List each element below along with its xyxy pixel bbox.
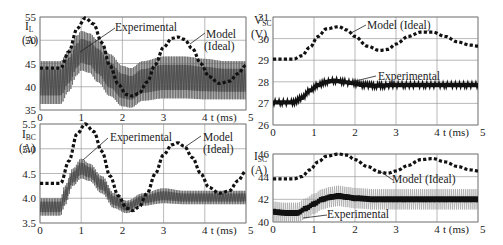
x-axis-label: t (ms) — [211, 111, 237, 124]
x-tick-label: 1 — [311, 126, 317, 138]
experimental-annotation: Experimental — [378, 70, 440, 83]
y-tick-label: 29 — [258, 54, 270, 66]
experimental-trace — [40, 159, 246, 216]
y-axis-label: IBC — [22, 128, 36, 142]
x-tick-label: 2 — [352, 126, 358, 138]
y-axis-unit: (V) — [251, 28, 267, 41]
chart-iSC: 40424446012345t (ms)ISC(A)Model (Ideal)E… — [251, 148, 486, 236]
x-tick-label: 5 — [480, 223, 486, 235]
x-tick-label: 1 — [78, 111, 84, 123]
x-tick-label: 0 — [37, 224, 43, 236]
x-tick-label: 4 — [434, 126, 440, 138]
x-axis-label: t (ms) — [443, 223, 469, 236]
y-tick-label: 27 — [258, 97, 270, 109]
y-axis-unit: (A) — [251, 164, 267, 177]
y-tick-label: 26 — [258, 119, 270, 131]
y-tick-label: 42 — [258, 193, 269, 205]
plot-frame — [273, 17, 478, 125]
model-annotation-sub: (Ideal) — [204, 40, 235, 53]
model-annotation: Model (Ideal) — [367, 19, 431, 32]
x-tick-label: 4 — [434, 223, 440, 235]
x-tick-label: 3 — [393, 126, 399, 138]
experimental-trace — [273, 79, 478, 105]
experimental-annotation: Experimental — [327, 208, 389, 221]
chart-iBC: 3.54.04.55.05.5012345t (ms)IBC(A)Experim… — [19, 118, 254, 237]
x-tick-label: 2 — [352, 223, 358, 235]
model-annotation: Model — [203, 131, 233, 143]
model-ideal-trace — [273, 27, 478, 59]
model-annotation: Model (Ideal) — [392, 173, 456, 186]
model-annotation-sub: (Ideal) — [203, 143, 234, 156]
x-tick-label: 2 — [120, 111, 126, 123]
y-tick-label: 45 — [25, 58, 37, 70]
y-tick-label: 40 — [25, 81, 37, 93]
y-tick-label: 28 — [258, 76, 270, 88]
figure: 3540455055012345t (ms)IL(A)ExperimentalM… — [0, 0, 503, 245]
x-tick-label: 1 — [78, 224, 84, 236]
chart-iL: 3540455055012345t (ms)IL(A)ExperimentalM… — [22, 11, 254, 124]
experimental-annotation: Experimental — [110, 131, 172, 144]
x-tick-label: 3 — [393, 223, 399, 235]
x-tick-label: 0 — [37, 111, 43, 123]
x-tick-label: 3 — [161, 224, 167, 236]
y-tick-label: 35 — [25, 104, 37, 116]
y-tick-label: 4.0 — [22, 192, 36, 204]
model-annotation: Model — [206, 28, 236, 40]
chart-vSC: 262728293031012345t (ms)VSC(V)Model (Ide… — [251, 11, 486, 139]
grid — [273, 17, 478, 125]
x-tick-label: 4 — [202, 224, 208, 236]
y-tick-label: 4.5 — [22, 168, 36, 180]
x-tick-label: 5 — [248, 224, 254, 236]
y-axis-unit: (A) — [22, 34, 38, 47]
x-tick-label: 3 — [161, 111, 167, 123]
y-tick-label: 3.5 — [22, 217, 36, 229]
experimental-annotation: Experimental — [115, 21, 177, 34]
x-tick-label: 2 — [120, 224, 126, 236]
x-tick-label: 5 — [248, 111, 254, 123]
x-axis-label: t (ms) — [211, 224, 237, 237]
x-tick-label: 1 — [311, 223, 317, 235]
y-axis-unit: (A) — [19, 142, 35, 155]
x-tick-label: 5 — [480, 126, 486, 138]
x-tick-label: 4 — [202, 111, 208, 123]
x-tick-label: 0 — [270, 126, 276, 138]
x-axis-label: t (ms) — [443, 126, 469, 139]
y-tick-label: 40 — [258, 216, 270, 228]
x-tick-label: 0 — [270, 223, 276, 235]
